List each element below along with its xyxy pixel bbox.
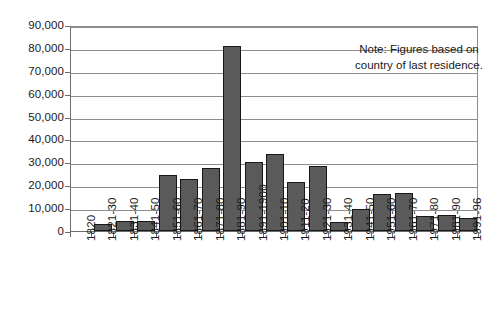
y-tick-mark bbox=[65, 95, 70, 96]
y-tick-mark bbox=[65, 49, 70, 50]
y-axis: 90,00080,00070,00060,00050,00040,00030,0… bbox=[0, 0, 64, 319]
x-tick-label: 1971-80 bbox=[429, 197, 441, 241]
x-tick-label: 1841-50 bbox=[150, 197, 162, 241]
x-tick-label: 1931-40 bbox=[343, 197, 355, 241]
gridline bbox=[71, 27, 477, 28]
y-tick-label: 50,000 bbox=[2, 112, 64, 124]
x-tick-label: 1981-90 bbox=[451, 197, 463, 241]
y-tick-mark bbox=[65, 72, 70, 73]
y-tick-mark bbox=[65, 140, 70, 141]
y-tick-mark bbox=[65, 209, 70, 210]
y-tick-mark bbox=[65, 118, 70, 119]
x-tick-label: 1951-60 bbox=[386, 197, 398, 241]
x-tick-label: 1871-80 bbox=[215, 197, 227, 241]
x-tick-label: 1831-40 bbox=[129, 197, 141, 241]
source-note: Note: Figures based on country of last r… bbox=[347, 41, 491, 73]
x-tick-label: 1921-30 bbox=[322, 197, 334, 241]
y-tick-label: 0 bbox=[2, 226, 64, 238]
bar-chart-figure: 90,00080,00070,00060,00050,00040,00030,0… bbox=[0, 0, 501, 319]
y-tick-mark bbox=[65, 186, 70, 187]
y-tick-label: 10,000 bbox=[2, 203, 64, 215]
y-tick-label: 30,000 bbox=[2, 157, 64, 169]
y-tick-mark bbox=[65, 26, 70, 27]
x-tick-label: 1911-20 bbox=[300, 198, 312, 241]
y-tick-mark bbox=[65, 163, 70, 164]
y-tick-label: 70,000 bbox=[2, 66, 64, 78]
y-tick-label: 80,000 bbox=[2, 43, 64, 55]
y-tick-label: 60,000 bbox=[2, 89, 64, 101]
x-tick-label: 1881-90 bbox=[236, 197, 248, 241]
x-tick-label: 1901-10 bbox=[279, 197, 291, 241]
y-tick-label: 20,000 bbox=[2, 180, 64, 192]
y-tick-label: 90,000 bbox=[2, 20, 64, 32]
gridline bbox=[71, 119, 477, 120]
x-tick-label: 1941-50 bbox=[365, 197, 377, 241]
x-tick-mark bbox=[70, 232, 71, 237]
gridline bbox=[71, 96, 477, 97]
x-tick-label: 1961-70 bbox=[408, 197, 420, 241]
x-tick-label: 1821-30 bbox=[107, 197, 119, 241]
x-tick-label: 1851-60 bbox=[172, 197, 184, 241]
x-tick-label: 1991-96 bbox=[472, 197, 484, 241]
y-tick-mark bbox=[65, 232, 70, 233]
y-tick-label: 40,000 bbox=[2, 134, 64, 146]
x-tick-label: 1820 bbox=[86, 215, 98, 241]
x-tick-label: 1861-70 bbox=[193, 197, 205, 241]
gridline bbox=[71, 141, 477, 142]
x-tick-label: 1891-1900 bbox=[258, 184, 270, 241]
